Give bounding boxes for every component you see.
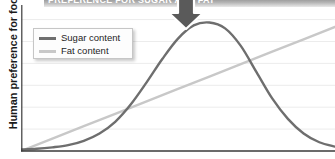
chart-figure: PREFERENCE FOR SUGAR AND FAT Human prefe… xyxy=(0,0,335,159)
y-axis-title: Human preference for food xyxy=(7,0,19,135)
chart-legend: Sugar content Fat content xyxy=(33,28,133,59)
legend-item-sugar: Sugar content xyxy=(39,32,132,44)
legend-item-fat: Fat content xyxy=(39,45,132,57)
legend-label-fat: Fat content xyxy=(61,45,109,57)
arrow-down-icon xyxy=(165,0,207,30)
legend-swatch-icon-sugar xyxy=(39,37,56,40)
legend-label-sugar: Sugar content xyxy=(61,32,120,44)
legend-swatch-icon-fat xyxy=(39,50,56,53)
